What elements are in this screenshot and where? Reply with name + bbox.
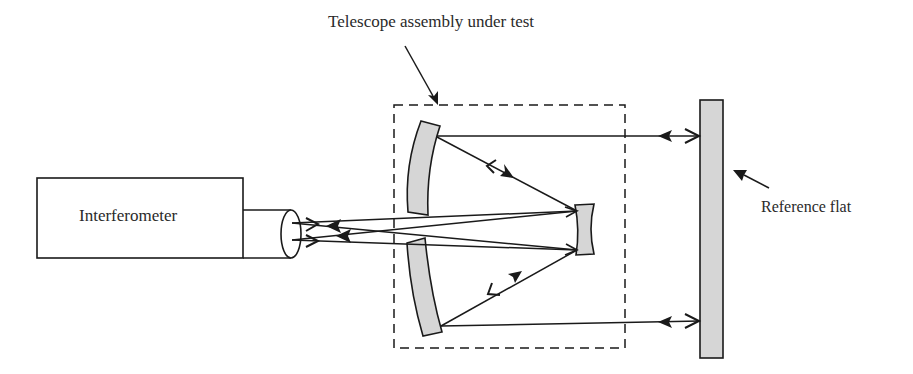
title-leader-arrowhead — [428, 91, 438, 105]
beam-lens-to-secondary — [292, 211, 577, 250]
ref-leader-line — [744, 175, 769, 188]
lower-primary-mirror — [407, 238, 442, 336]
interferometer-label: Interferometer — [79, 206, 177, 226]
beam-lower-primary-secondary — [441, 250, 577, 326]
reference-flat — [700, 100, 723, 358]
upper-primary-mirror — [407, 121, 440, 215]
reference-flat-label: Reference flat — [761, 198, 851, 216]
optical-test-diagram — [0, 0, 913, 374]
lens-icon — [281, 210, 301, 258]
secondary-mirror — [575, 204, 594, 255]
telescope-assembly-label: Telescope assembly under test — [328, 12, 534, 32]
title-leader-line — [405, 46, 433, 96]
